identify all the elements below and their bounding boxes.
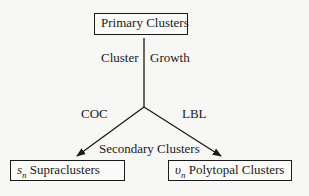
polytopal-clusters-label: Polytopal Clusters [189, 162, 285, 177]
supraclusters-subscript: n [22, 170, 27, 180]
stem-label-cluster: Cluster [101, 50, 139, 66]
branch-label-coc: COC [81, 106, 108, 122]
stem-label-growth: Growth [150, 50, 190, 66]
primary-clusters-label: Primary Clusters [101, 15, 189, 30]
polytopal-subscript: n [181, 170, 186, 180]
branch-label-lbl: LBL [182, 106, 207, 122]
supraclusters-label: Supraclusters [30, 162, 100, 177]
secondary-clusters-label: Secondary Clusters [99, 141, 200, 157]
supraclusters-node: sn Supraclusters [10, 160, 125, 181]
polytopal-clusters-node: υn Polytopal Clusters [168, 160, 292, 181]
primary-clusters-node: Primary Clusters [94, 13, 188, 35]
